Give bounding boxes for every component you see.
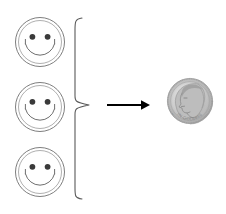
smiley-face-3: [16, 148, 65, 197]
smiley-face-1: [16, 18, 65, 67]
diagram-svg: LIBERTY IN GOD 1986: [0, 0, 226, 214]
figure-canvas: Three smiley faces equal one dime smiley…: [0, 0, 226, 214]
smiley-face-2: [16, 83, 65, 132]
